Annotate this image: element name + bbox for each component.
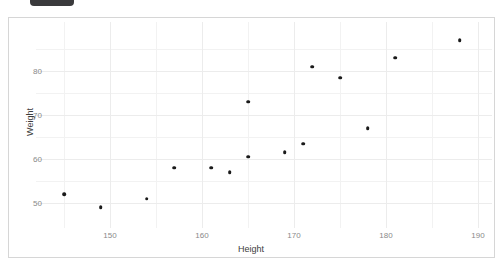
y-axis-title: Weight — [25, 108, 35, 136]
top-chrome-badge — [30, 0, 74, 6]
x-axis-title: Height — [238, 244, 264, 254]
chart-figure-frame — [8, 17, 495, 258]
